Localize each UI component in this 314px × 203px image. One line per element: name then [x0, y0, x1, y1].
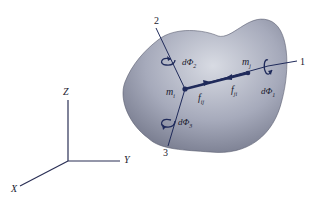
axis-2-label: 1 [300, 57, 305, 67]
axis-1-label: 2 [154, 16, 159, 26]
axis-x-label: X [11, 184, 17, 194]
axis-y-label: Y [124, 155, 130, 165]
dphi1-label: dΦ1 [261, 87, 275, 98]
particle-mi [182, 86, 187, 91]
global-axes [20, 100, 120, 186]
particle-mi-label: mi [166, 87, 175, 99]
axis-3-label: 3 [163, 148, 168, 158]
force-fij-label: fij [198, 93, 204, 105]
axis-z-label: Z [63, 87, 69, 97]
force-fji-label: fji [231, 85, 237, 97]
particle-mj-label: mj [242, 57, 251, 69]
diagram-canvas [0, 0, 314, 203]
particle-mj [246, 71, 251, 76]
dphi2-label: dΦ2 [182, 58, 196, 69]
dphi3-label: dΦ3 [178, 118, 192, 129]
